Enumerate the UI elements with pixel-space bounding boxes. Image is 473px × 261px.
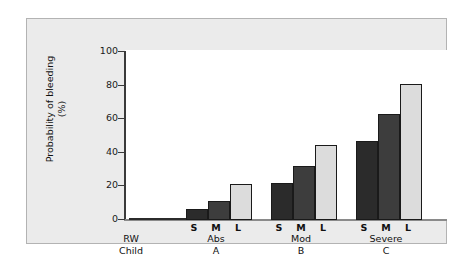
- bar-mod-b-l: [315, 145, 337, 220]
- y-tick-mark-60: [118, 118, 125, 119]
- group-label-severe-code: C: [356, 245, 416, 257]
- chart-panel: Probability of bleeding (%) 100 80 60 40…: [26, 18, 447, 244]
- y-tick-mark-20: [118, 185, 125, 186]
- y-tick-label-0: 0: [78, 214, 118, 224]
- group-label-rw-code: Child: [101, 245, 161, 257]
- bars-layer: [125, 50, 447, 220]
- y-axis-title-line1: Probability of bleeding: [44, 56, 55, 163]
- bar-severe-c-m: [378, 114, 400, 220]
- y-tick-label-40-wrap: 40: [73, 147, 118, 157]
- y-tick-label-60-wrap: 60: [73, 113, 118, 123]
- bar-abs-a-s: [186, 209, 208, 220]
- size-label-mod-m: M: [294, 222, 308, 233]
- y-tick-mark-100: [118, 51, 125, 52]
- y-tick-label-40: 40: [78, 147, 118, 157]
- bar-abs-a-m: [208, 201, 230, 220]
- y-tick-label-100-wrap: 100: [73, 46, 118, 56]
- y-axis-title-line2: (%): [56, 101, 67, 117]
- group-label-abs-code: A: [186, 245, 246, 257]
- bar-abs-a-l: [230, 184, 252, 220]
- size-label-abs-m: M: [209, 222, 223, 233]
- size-label-severe-s: S: [357, 222, 371, 233]
- size-label-severe-m: M: [379, 222, 393, 233]
- y-tick-label-80: 80: [78, 80, 118, 90]
- size-label-abs-s: S: [187, 222, 201, 233]
- bar-severe-c-l: [400, 84, 422, 220]
- y-tick-mark-40: [118, 152, 125, 153]
- bar-severe-c-s: [356, 141, 378, 220]
- y-tick-label-0-wrap: 0: [73, 214, 118, 224]
- y-tick-label-20-wrap: 20: [73, 180, 118, 190]
- y-axis-title: Probability of bleeding (%): [44, 49, 68, 169]
- y-tick-label-60: 60: [78, 113, 118, 123]
- group-label-severe: Severe: [356, 233, 416, 245]
- y-tick-mark-80: [118, 85, 125, 86]
- group-label-mod: Mod: [271, 233, 331, 245]
- bar-rw-child-s: [129, 218, 151, 220]
- bar-mod-b-s: [271, 183, 293, 220]
- bar-rw-child-m: [151, 218, 173, 220]
- y-tick-mark-0: [118, 219, 125, 220]
- size-label-abs-l: L: [231, 222, 245, 233]
- figure-container: Probability of bleeding (%) 100 80 60 40…: [0, 0, 473, 261]
- group-label-abs: Abs: [186, 233, 246, 245]
- size-label-severe-l: L: [401, 222, 415, 233]
- size-label-mod-s: S: [272, 222, 286, 233]
- group-label-mod-code: B: [271, 245, 331, 257]
- y-tick-label-20: 20: [78, 180, 118, 190]
- group-label-rw: RW: [101, 233, 161, 245]
- size-label-mod-l: L: [316, 222, 330, 233]
- bar-mod-b-m: [293, 166, 315, 220]
- y-tick-label-80-wrap: 80: [73, 80, 118, 90]
- y-tick-label-100: 100: [78, 46, 118, 56]
